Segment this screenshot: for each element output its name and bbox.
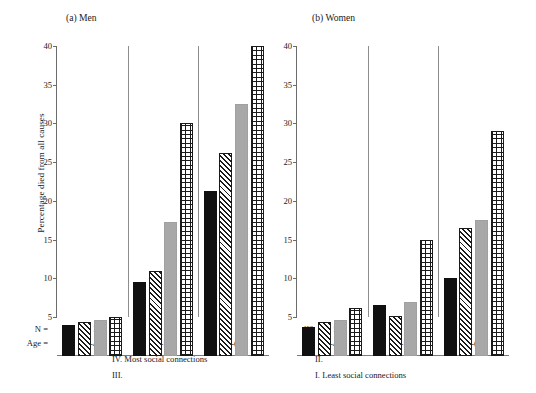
y-axis-tick	[53, 46, 57, 47]
bar	[149, 271, 162, 355]
y-axis-tick-label: 15	[283, 235, 292, 245]
y-axis-tick-label: 40	[283, 41, 292, 51]
y-axis-tick	[293, 240, 297, 241]
bar	[251, 46, 264, 356]
bar	[180, 123, 193, 355]
group-divider	[438, 46, 439, 317]
y-axis-tick	[53, 240, 57, 241]
y-axis-tick	[53, 317, 57, 318]
y-axis-tick	[293, 162, 297, 163]
legend-label: II.	[315, 354, 323, 364]
bar	[420, 240, 433, 356]
bar	[334, 320, 347, 356]
bar	[94, 320, 107, 356]
y-axis-tick-label: 25	[43, 157, 52, 167]
y-axis-tick	[53, 201, 57, 202]
bar	[78, 322, 91, 355]
y-axis-tick-label: 10	[283, 273, 292, 283]
legend-label: III.	[112, 370, 123, 380]
y-axis-tick-label: 5	[48, 312, 52, 322]
plot-area: 510152025303540	[296, 46, 509, 317]
legend-label: I. Least social connections	[315, 370, 406, 380]
y-axis-tick-label: 5	[288, 312, 292, 322]
bar	[491, 131, 504, 356]
bar	[164, 222, 177, 356]
y-axis-tick-label: 10	[43, 273, 52, 283]
bar	[133, 282, 146, 356]
bar	[475, 220, 488, 356]
bar	[404, 302, 417, 355]
y-axis-tick	[53, 85, 57, 86]
bar	[235, 104, 248, 356]
group-divider	[368, 46, 369, 317]
y-axis-tick	[293, 85, 297, 86]
y-axis-tick	[53, 162, 57, 163]
legend-item-iii[interactable]: III.	[95, 370, 123, 380]
group-divider	[198, 46, 199, 317]
legend-swatch-ii-icon	[298, 355, 310, 364]
plot-area: 510152025303540	[56, 46, 269, 317]
y-axis-tick-label: 15	[43, 235, 52, 245]
age-row-key: Age =	[10, 338, 48, 348]
bar	[302, 327, 315, 356]
bar	[109, 317, 122, 356]
y-axis-tick-label: 35	[283, 80, 292, 90]
y-axis-tick-label: 25	[283, 157, 292, 167]
bar	[204, 191, 217, 356]
n-row-key: N =	[10, 324, 48, 334]
bar	[389, 316, 402, 355]
legend-label: IV. Most social connections	[112, 354, 207, 364]
y-axis-tick	[293, 46, 297, 47]
bar	[349, 308, 362, 356]
legend-item-iv[interactable]: IV. Most social connections	[95, 354, 207, 364]
y-axis-tick-label: 30	[283, 118, 292, 128]
y-axis-tick-label: 20	[43, 196, 52, 206]
y-axis-tick	[53, 123, 57, 124]
y-axis-tick	[293, 201, 297, 202]
y-axis-tick	[293, 317, 297, 318]
bar	[318, 322, 331, 355]
y-axis-tick	[53, 278, 57, 279]
bar	[62, 325, 75, 356]
panel-women: (b) Women510152025303540	[296, 0, 508, 393]
y-axis-tick-label: 20	[283, 196, 292, 206]
y-axis-tick	[293, 278, 297, 279]
y-axis-title: Percentage died from all causes	[36, 58, 46, 288]
legend-swatch-i-icon	[298, 371, 310, 380]
y-axis-tick-label: 35	[43, 80, 52, 90]
bar	[444, 278, 457, 355]
figure-canvas: Percentage died from all causes 45745039…	[0, 0, 536, 393]
bar	[373, 305, 386, 355]
y-axis-tick-label: 40	[43, 41, 52, 51]
bar	[219, 153, 232, 356]
legend-item-ii[interactable]: II.	[298, 354, 323, 364]
legend-swatch-iv-icon	[95, 355, 107, 364]
panel-title: (b) Women	[312, 12, 355, 23]
bar	[459, 228, 472, 356]
legend-item-i[interactable]: I. Least social connections	[298, 370, 406, 380]
panel-title: (a) Men	[66, 12, 97, 23]
legend-swatch-iii-icon	[95, 371, 107, 380]
y-axis-tick	[293, 123, 297, 124]
panel-men: (a) Men510152025303540	[56, 0, 268, 393]
y-axis-tick-label: 30	[43, 118, 52, 128]
group-divider	[128, 46, 129, 317]
